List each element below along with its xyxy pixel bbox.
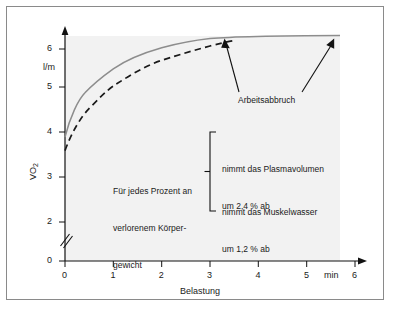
x-tick-label-3: 3 xyxy=(207,270,212,281)
chart-canvas xyxy=(0,0,394,310)
y-tick-label-0: 0 xyxy=(47,255,52,266)
annotation-muskelwasser-line-2: um 1,2 % ab xyxy=(222,243,317,255)
annotation-muskelwasser: nimmt das Muskelwasser um 1,2 % ab xyxy=(222,181,317,267)
x-tick-label-4: 4 xyxy=(256,270,261,281)
annotation-arbeitsabbruch: Arbeitsabbruch xyxy=(238,95,295,106)
y-tick-label-5: 5 xyxy=(47,81,52,92)
annotation-bedingung-line-2: verlorenem Körper- xyxy=(113,222,192,234)
y-axis-title: VO2 xyxy=(28,163,38,180)
annotation-plasmavolumen-line-1: nimmt das Plasmavolumen xyxy=(222,163,324,175)
x-unit-label: min xyxy=(324,270,339,281)
annotation-bedingung-line-1: Für jedes Prozent an xyxy=(113,185,192,197)
y-tick-label-3: 3 xyxy=(47,171,52,182)
annotation-bedingung-line-3: gewicht xyxy=(113,259,192,271)
y-axis-arrow-icon xyxy=(62,26,69,35)
y-unit-label: l/m xyxy=(43,62,55,73)
x-axis-title: Belastung xyxy=(180,286,220,297)
y-ticks xyxy=(59,49,65,261)
annotation-muskelwasser-line-1: nimmt das Muskelwasser xyxy=(222,206,317,218)
y-tick-label-4: 4 xyxy=(47,126,52,137)
x-tick-label-5: 5 xyxy=(304,270,309,281)
x-tick-label-0: 0 xyxy=(62,270,67,281)
annotation-bedingung: Für jedes Prozent an verlorenem Körper- … xyxy=(113,160,192,283)
y-tick-label-6: 6 xyxy=(47,43,52,54)
x-axis-arrow-icon xyxy=(358,258,367,265)
x-tick-label-6: 6 xyxy=(352,270,357,281)
y-tick-label-2: 2 xyxy=(47,216,52,227)
